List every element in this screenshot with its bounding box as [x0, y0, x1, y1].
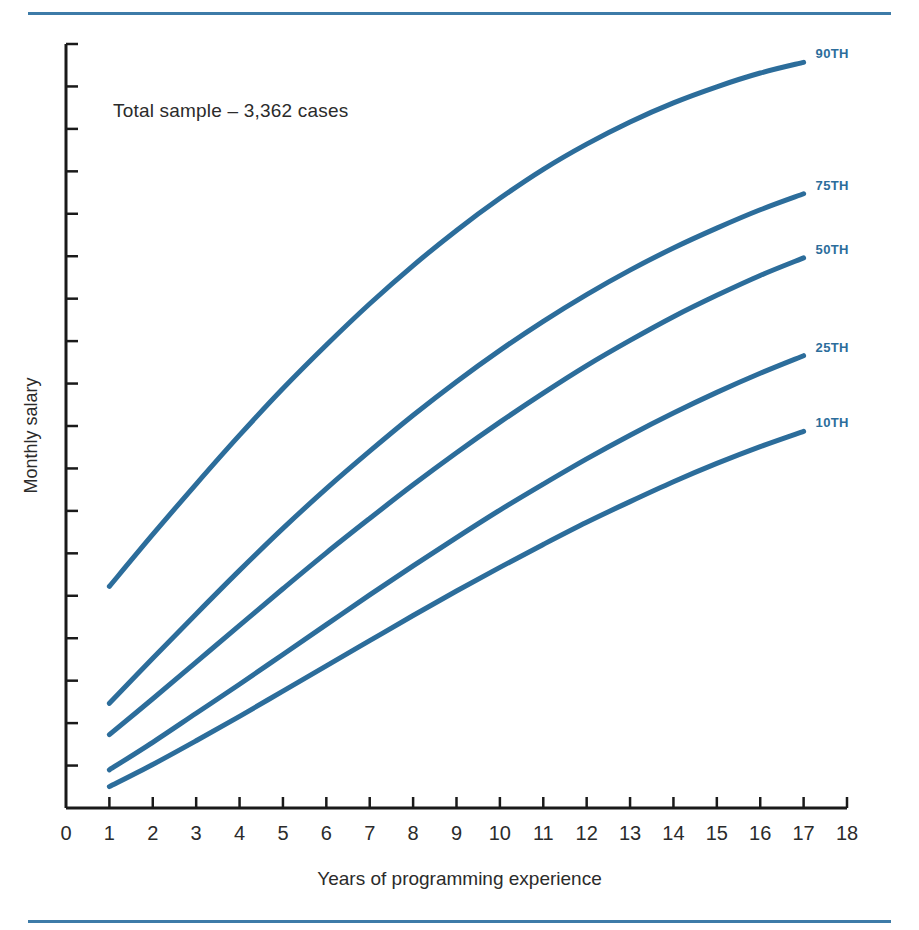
series-label-10th: 10TH: [816, 415, 849, 430]
x-tick-label: 17: [784, 822, 824, 845]
x-tick-label: 14: [653, 822, 693, 845]
x-tick-label: 15: [697, 822, 737, 845]
x-tick-label: 4: [220, 822, 260, 845]
series-label-50th: 50TH: [816, 242, 849, 257]
figure-container: Total sample – 3,362 cases Monthly salar…: [0, 0, 919, 930]
x-tick-label: 9: [437, 822, 477, 845]
series-label-25th: 25TH: [816, 340, 849, 355]
x-tick-label: 5: [263, 822, 303, 845]
x-tick-label: 11: [523, 822, 563, 845]
sample-size-annotation: Total sample – 3,362 cases: [113, 100, 348, 122]
x-tick-label: 10: [480, 822, 520, 845]
series-line-50th: [109, 258, 803, 735]
x-tick-label: 13: [610, 822, 650, 845]
x-tick-label: 6: [306, 822, 346, 845]
chart-plot-area: [0, 0, 919, 930]
x-tick-label: 16: [740, 822, 780, 845]
series-line-10th: [109, 431, 803, 786]
series-line-75th: [109, 194, 803, 704]
y-axis-title: Monthly salary: [21, 376, 42, 496]
x-tick-label: 18: [827, 822, 867, 845]
x-tick-label: 12: [567, 822, 607, 845]
x-tick-label: 8: [393, 822, 433, 845]
series-label-90th: 90TH: [816, 46, 849, 61]
x-tick-label: 2: [133, 822, 173, 845]
axes-group: [66, 44, 847, 808]
x-tick-label: 7: [350, 822, 390, 845]
series-label-75th: 75TH: [816, 178, 849, 193]
x-tick-label: 3: [176, 822, 216, 845]
series-line-90th: [109, 62, 803, 586]
x-axis-title: Years of programming experience: [0, 868, 919, 890]
x-tick-label: 0: [46, 822, 86, 845]
series-lines-group: [109, 62, 803, 786]
series-line-25th: [109, 356, 803, 770]
x-tick-label: 1: [89, 822, 129, 845]
